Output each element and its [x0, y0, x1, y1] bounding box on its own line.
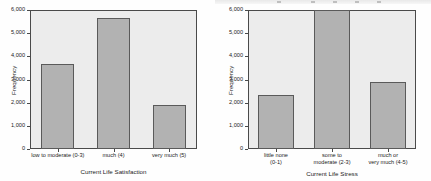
y-axis-tick-label: 1,000: [11, 123, 25, 129]
bar-slot: [153, 10, 186, 149]
bar-rect: [97, 18, 130, 149]
bar-slot: [97, 10, 130, 149]
y-axis-tick-label: 2,000: [11, 100, 25, 106]
y-axis-tick-mark: [245, 56, 248, 57]
bar-rect: [258, 95, 294, 149]
chart-life-satisfaction: 01,0002,0003,0004,0005,0006,000 low to m…: [0, 0, 215, 181]
figure-root: 01,0002,0003,0004,0005,0006,000 low to m…: [0, 0, 431, 181]
y-axis-tick-label: 2,000: [229, 100, 243, 106]
y-axis-tick-label: 6,000: [229, 7, 243, 13]
bar-slot: [258, 10, 294, 149]
y-axis-tick-mark: [245, 149, 248, 150]
bar-rect: [370, 82, 406, 149]
x-axis-title-life-satisfaction: Current Life Satisfaction: [30, 168, 197, 175]
y-axis-title-life-satisfaction: Frequency: [10, 66, 17, 95]
y-axis-tick-label: 0: [240, 146, 243, 152]
y-axis-tick-mark: [245, 10, 248, 11]
y-axis-tick-mark: [245, 80, 248, 81]
x-axis-title-life-stress: Current Life Stress: [248, 170, 416, 177]
y-axis-tick-label: 1,000: [229, 123, 243, 129]
y-axis-tick-mark: [245, 126, 248, 127]
bar-slot: [370, 10, 406, 149]
bar-series-life-stress: [248, 10, 416, 149]
y-axis-tick-label: 4,000: [229, 54, 243, 60]
bar-rect: [41, 64, 74, 149]
y-axis-tick-mark: [245, 33, 248, 34]
y-axis-tick-mark: [27, 126, 30, 127]
bar-series-life-satisfaction: [30, 10, 197, 149]
x-axis-tick-label: very much (5): [132, 152, 206, 159]
y-axis-tick-mark: [245, 103, 248, 104]
bar-rect: [153, 105, 186, 149]
y-axis-tick-mark: [27, 80, 30, 81]
y-axis-title-life-stress: Frequency: [227, 66, 234, 95]
y-axis-tick-mark: [27, 103, 30, 104]
y-axis-tick-label: 5,000: [229, 30, 243, 36]
top-crop-artifact: [215, 0, 431, 4]
y-axis-tick-label: 0: [22, 146, 25, 152]
x-axis-tick-label: much or very much (4-5): [351, 152, 425, 166]
bar-rect: [314, 10, 350, 149]
y-axis-tick-label: 5,000: [11, 30, 25, 36]
y-axis-tick-mark: [27, 149, 30, 150]
y-axis-tick-mark: [27, 10, 30, 11]
y-axis-tick-label: 6,000: [11, 7, 25, 13]
chart-life-stress: 01,0002,0003,0004,0005,0006,000 little n…: [215, 0, 431, 181]
bar-slot: [314, 10, 350, 149]
y-axis-tick-label: 4,000: [11, 54, 25, 60]
bar-slot: [41, 10, 74, 149]
y-axis-tick-mark: [27, 33, 30, 34]
y-axis-tick-mark: [27, 56, 30, 57]
